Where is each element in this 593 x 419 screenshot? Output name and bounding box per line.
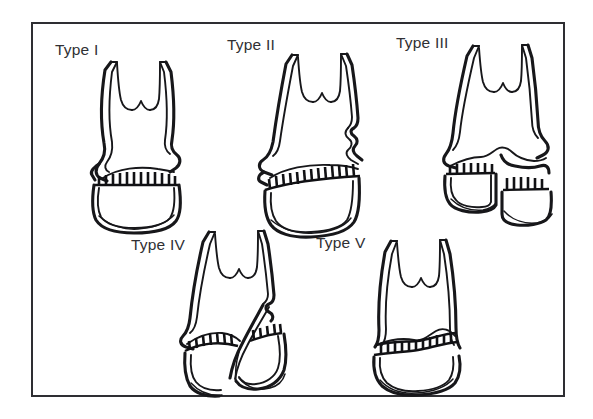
type-5-physis-crushed xyxy=(374,333,458,355)
type-4-notch xyxy=(230,269,248,278)
panel-type-3: Type III xyxy=(396,34,552,225)
panel-type-4-label: Type IV xyxy=(131,236,185,253)
type-1-physis xyxy=(95,172,178,185)
type-5-epiphysis-outer xyxy=(374,356,460,395)
type-3-left-fragment-inner xyxy=(451,175,491,207)
panel-type-3-label: Type III xyxy=(396,34,448,51)
type-5-medullary-left xyxy=(397,243,412,287)
type-5-notch xyxy=(412,278,430,287)
type-2-epiphysis-inner xyxy=(271,181,353,232)
type-3-medullary-left xyxy=(479,48,494,92)
type-2-shaft-outer-right xyxy=(347,54,362,160)
type-3-right-fragment-articular xyxy=(504,211,552,223)
type-1-epiphysis-outer xyxy=(93,185,181,233)
type-2-shaft-outer-left xyxy=(259,55,292,175)
type-1-notch xyxy=(132,101,150,110)
type-3-epiphysis-left-fragment xyxy=(445,163,496,212)
panel-type-1-label: Type I xyxy=(55,41,98,58)
type-4-wedge-inner xyxy=(239,336,280,384)
type-1-shaft-inner-right xyxy=(160,62,170,154)
type-2-physis xyxy=(265,164,360,190)
type-3-right-fragment-top xyxy=(501,155,549,173)
type-1-shaft-outer-right xyxy=(166,62,180,172)
panel-type-2: Type II xyxy=(227,36,362,237)
type-3-notch xyxy=(494,83,512,92)
type-4-physis-left xyxy=(185,333,238,351)
type-4-oblique-fracture-line xyxy=(230,305,263,378)
type-1-shaft-inner-left xyxy=(105,62,117,172)
type-4-medullary-right xyxy=(248,232,258,278)
type-3-physis-right xyxy=(503,177,549,190)
panel-type-5: Type V xyxy=(316,234,460,395)
type-2-medullary-left xyxy=(298,57,313,102)
panel-type-1: Type I xyxy=(55,41,180,233)
type-5-medullary-right xyxy=(430,241,440,287)
type-4-medullary-left xyxy=(215,234,230,278)
type-5-shaft-outer-left xyxy=(375,241,391,347)
type-4-oblique-fracture-line-inner xyxy=(235,307,269,379)
type-1-medullary-left xyxy=(117,63,132,110)
type-1-epiphysis-inner xyxy=(98,188,174,228)
type-4-epiphysis-left-inner xyxy=(191,355,221,390)
type-2-notch xyxy=(313,93,331,102)
panel-type-5-label: Type V xyxy=(316,234,366,251)
panel-type-2-label: Type II xyxy=(227,36,275,53)
type-3-epiphysis-right-fragment xyxy=(501,155,552,225)
type-1-epiphysis-articular xyxy=(99,215,174,229)
type-3-shaft-outer-left xyxy=(444,46,473,168)
salter-harris-illustration: Type I xyxy=(0,0,593,419)
type-1-medullary-right xyxy=(150,63,160,110)
type-2-medullary-right xyxy=(331,55,341,102)
type-5-epiphysis-inner xyxy=(380,357,454,391)
panel-type-4: Type IV xyxy=(131,231,286,396)
type-3-medullary-right xyxy=(512,46,522,92)
figure-root: Type I xyxy=(0,0,593,419)
